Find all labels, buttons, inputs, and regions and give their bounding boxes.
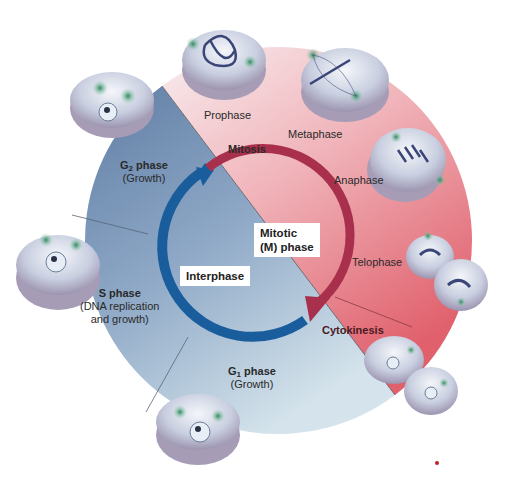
label-prophase: Prophase xyxy=(204,109,251,122)
cell-prophase xyxy=(182,30,266,100)
label-s-phase: S phase (DNA replication and growth) xyxy=(80,287,159,326)
mitotic-phase-box: Mitotic (M) phase xyxy=(254,223,320,257)
label-telophase: Telophase xyxy=(352,256,402,269)
cell-metaphase xyxy=(301,48,389,122)
label-cytokinesis: Cytokinesis xyxy=(322,324,384,337)
cell-g2 xyxy=(70,72,154,138)
label-metaphase: Metaphase xyxy=(288,128,342,141)
label-mitosis: Mitosis xyxy=(228,143,266,156)
cell-g1 xyxy=(156,394,240,465)
label-anaphase: Anaphase xyxy=(334,174,384,187)
stray-mark xyxy=(435,461,439,465)
label-g1-phase: G1 phase (Growth) xyxy=(228,365,276,391)
label-g2-phase: G2 phase (Growth) xyxy=(120,159,168,185)
interphase-box: Interphase xyxy=(180,266,250,286)
